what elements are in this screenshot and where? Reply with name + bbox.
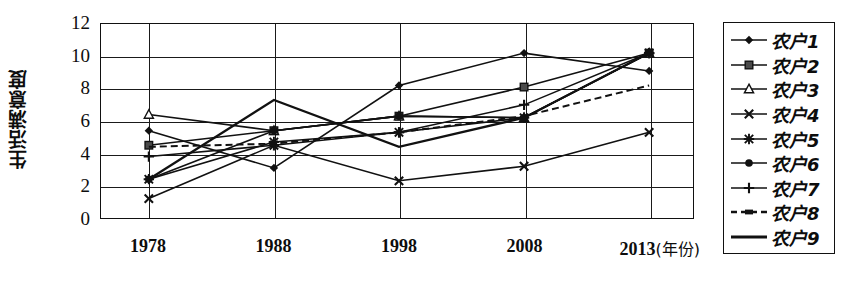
legend-marker-plus-icon bbox=[729, 180, 769, 196]
legend-label: 农户2 bbox=[771, 52, 820, 78]
y-axis-title: 生活满意度 bbox=[6, 14, 32, 224]
x-tick-2013: 2013(年份) bbox=[619, 236, 699, 260]
x-tick-2008: 2008 bbox=[507, 236, 543, 257]
y-tick-2: 2 bbox=[81, 175, 91, 197]
legend-item-农户1[interactable]: 农户1 bbox=[729, 28, 830, 53]
series-农户4 bbox=[145, 128, 654, 203]
legend-label: 农户4 bbox=[771, 101, 820, 127]
series-canvas bbox=[101, 24, 693, 218]
legend-item-农户7[interactable]: 农户7 bbox=[729, 176, 830, 201]
legend-label: 农户9 bbox=[771, 224, 820, 250]
x-axis-unit-label: (年份) bbox=[655, 240, 699, 259]
y-tick-12: 12 bbox=[71, 12, 90, 34]
chart-figure: 生活满意度 024681012 19781988199820082013(年份)… bbox=[0, 0, 848, 306]
legend-marker-square-icon bbox=[729, 57, 769, 73]
legend-item-农户5[interactable]: 农户5 bbox=[729, 126, 830, 151]
y-tick-8: 8 bbox=[81, 77, 91, 99]
y-tick-10: 10 bbox=[71, 45, 90, 67]
legend-marker-triangle-icon bbox=[729, 81, 769, 97]
x-axis-tick-labels: 19781988199820082013(年份) bbox=[100, 222, 694, 262]
legend-item-农户6[interactable]: 农户6 bbox=[729, 151, 830, 176]
legend-item-农户4[interactable]: 农户4 bbox=[729, 102, 830, 127]
legend-item-农户8[interactable]: 农户8 bbox=[729, 200, 830, 225]
legend: 农户1农户2农户3农户4农户5农户6农户7农户8农户9 bbox=[723, 22, 835, 254]
series-农户6 bbox=[145, 49, 653, 183]
legend-marker-dashed-icon bbox=[729, 204, 769, 220]
legend-marker-asterisk-icon bbox=[729, 131, 769, 147]
y-tick-6: 6 bbox=[81, 110, 91, 132]
legend-marker-line-icon bbox=[729, 229, 769, 245]
legend-label: 农户5 bbox=[771, 126, 820, 152]
legend-label: 农户7 bbox=[771, 175, 820, 201]
x-tick-1988: 1988 bbox=[256, 236, 292, 257]
legend-marker-circle-icon bbox=[729, 155, 769, 171]
legend-marker-diamond-icon bbox=[729, 32, 769, 48]
x-tick-1998: 1998 bbox=[381, 236, 417, 257]
y-tick-4: 4 bbox=[81, 143, 91, 165]
legend-label: 农户6 bbox=[771, 150, 820, 176]
legend-marker-cross-icon bbox=[729, 106, 769, 122]
legend-label: 农户1 bbox=[771, 27, 820, 53]
y-axis-tick-labels: 024681012 bbox=[36, 0, 96, 306]
legend-item-农户3[interactable]: 农户3 bbox=[729, 77, 830, 102]
legend-label: 农户8 bbox=[771, 199, 820, 225]
legend-item-农户2[interactable]: 农户2 bbox=[729, 53, 830, 78]
y-tick-0: 0 bbox=[81, 208, 91, 230]
x-tick-1978: 1978 bbox=[130, 236, 166, 257]
legend-item-农户9[interactable]: 农户9 bbox=[729, 225, 830, 250]
legend-label: 农户3 bbox=[771, 76, 820, 102]
plot-area bbox=[100, 23, 694, 219]
